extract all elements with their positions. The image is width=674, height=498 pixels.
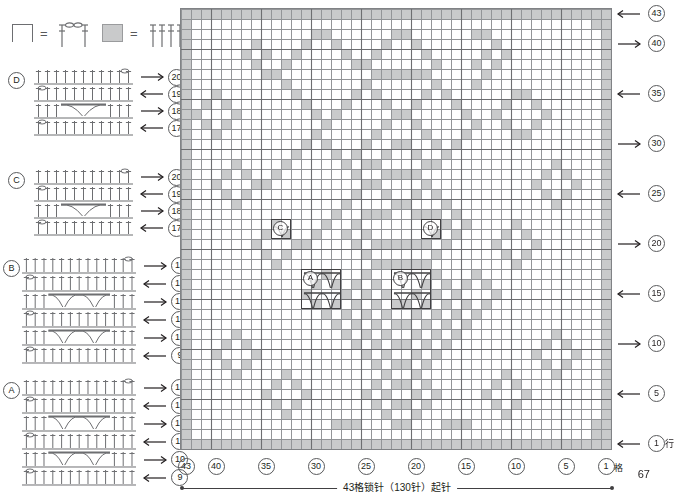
- chain-and-double-crochet-group-icon: [58, 21, 92, 53]
- page-number: 67: [638, 468, 650, 480]
- equals-sign: =: [40, 29, 48, 39]
- grid-row-number: 5: [648, 385, 665, 402]
- row-direction-arrow-left: [139, 222, 165, 234]
- row-direction-arrow-left: [142, 400, 168, 412]
- diagram-row-marker: 18: [139, 203, 185, 220]
- row-direction-arrow-left: [142, 350, 168, 362]
- row-direction-arrow-left: [616, 88, 642, 100]
- grid-column-number: 35: [258, 458, 275, 475]
- row-direction-arrow-right: [142, 382, 168, 394]
- diagram-label-c: C: [8, 172, 25, 189]
- inset-box-c[interactable]: C: [271, 219, 291, 239]
- diagram-label-b: B: [3, 260, 20, 277]
- row-direction-arrow-right: [139, 105, 165, 117]
- column-unit-label: 格: [614, 461, 623, 474]
- row-direction-arrow-left: [142, 436, 168, 448]
- grid-row-marker: 1行: [616, 435, 674, 452]
- diagram-row-marker: 20: [139, 69, 185, 86]
- inset-label-c: C: [273, 221, 288, 236]
- grid-row-number: 25: [648, 185, 665, 202]
- row-direction-arrow-left: [142, 314, 168, 326]
- diagram-row-marker: 19: [139, 186, 185, 203]
- row-direction-arrow-left: [616, 388, 642, 400]
- grid-column-number: 30: [308, 458, 325, 475]
- diagram-label-a: A: [3, 382, 20, 399]
- row-direction-arrow-right: [139, 71, 165, 83]
- row-direction-arrow-right: [616, 38, 642, 50]
- inset-label-a: A: [303, 271, 318, 286]
- stitch-diagram-a: [22, 378, 136, 490]
- legend-item-filled: =: [98, 18, 188, 52]
- row-direction-arrow-left: [139, 122, 165, 134]
- stitch-diagram-c: [34, 168, 133, 240]
- inset-box-b[interactable]: B: [391, 269, 431, 309]
- grid-row-marker: 25: [616, 185, 665, 202]
- row-direction-arrow-left: [616, 438, 642, 450]
- row-direction-arrow-left: [139, 88, 165, 100]
- inset-box-a[interactable]: A: [301, 269, 341, 309]
- stitch-diagram-d: [34, 68, 133, 140]
- grid-row-marker: 35: [616, 85, 665, 102]
- stitch-diagram-b: [22, 256, 136, 368]
- grid-row-number: 15: [648, 285, 665, 302]
- grid-row-marker: 20: [616, 235, 665, 252]
- grid-row-number: 30: [648, 135, 665, 152]
- grid-column-number: 20: [408, 458, 425, 475]
- caption-dot-right: [610, 486, 614, 490]
- row-direction-arrow-right: [142, 332, 168, 344]
- filled-square-symbol-icon: [102, 24, 123, 42]
- row-direction-arrow-left: [142, 472, 168, 484]
- row-direction-arrow-right: [142, 418, 168, 430]
- grid-column-number: 15: [458, 458, 475, 475]
- grid-column-number: 25: [358, 458, 375, 475]
- grid-column-number: 10: [508, 458, 525, 475]
- row-direction-arrow-left: [616, 8, 642, 20]
- legend: = =: [8, 18, 188, 52]
- row-direction-arrow-left: [142, 278, 168, 290]
- inset-box-d[interactable]: D: [421, 219, 441, 239]
- row-direction-arrow-right: [616, 238, 642, 250]
- row-direction-arrow-right: [142, 296, 168, 308]
- row-direction-arrow-right: [142, 260, 168, 272]
- grid-row-marker: 40: [616, 35, 665, 52]
- row-direction-arrow-left: [616, 188, 642, 200]
- legend-item-open: =: [8, 18, 94, 52]
- grid-column-number: 43: [178, 458, 195, 475]
- row-direction-arrow-right: [139, 205, 165, 217]
- row-direction-arrow-right: [616, 138, 642, 150]
- grid-column-number: 1: [598, 458, 615, 475]
- grid-row-number: 43: [648, 5, 665, 22]
- grid-row-marker: 43: [616, 5, 665, 22]
- row-direction-arrow-left: [139, 188, 165, 200]
- grid-row-number: 10: [648, 335, 665, 352]
- grid-row-marker: 30: [616, 135, 665, 152]
- grid-row-number: 20: [648, 235, 665, 252]
- row-direction-arrow-left: [616, 288, 642, 300]
- grid-row-marker: 5: [616, 385, 665, 402]
- chart-grid[interactable]: DCBA: [180, 8, 612, 450]
- diagram-row-marker: 17: [139, 220, 185, 237]
- diagram-label-d: D: [8, 72, 25, 89]
- grid-row-marker: 15: [616, 285, 665, 302]
- equals-sign: =: [130, 29, 138, 39]
- open-square-symbol-icon: [12, 24, 33, 42]
- grid-row-marker: 10: [616, 335, 665, 352]
- diagram-row-marker: 17: [139, 120, 185, 137]
- diagram-row-marker: 19: [139, 86, 185, 103]
- foundation-chain-caption: 43格锁针（130针）起针: [180, 481, 614, 497]
- grid-row-number: 1: [648, 435, 665, 452]
- inset-label-d: D: [423, 221, 438, 236]
- diagram-row-marker: 20: [139, 169, 185, 186]
- row-direction-arrow-right: [616, 338, 642, 350]
- row-direction-arrow-right: [139, 171, 165, 183]
- diagram-row-marker: 18: [139, 103, 185, 120]
- grid-column-number: 40: [208, 458, 225, 475]
- grid-row-number: 40: [648, 35, 665, 52]
- row-direction-arrow-right: [142, 454, 168, 466]
- inset-label-b: B: [393, 271, 408, 286]
- chart-grid-wrapper: DCBA: [180, 8, 612, 450]
- row-unit-label: 行: [665, 437, 674, 450]
- grid-row-number: 35: [648, 85, 665, 102]
- caption-text: 43格锁针（130针）起针: [337, 481, 457, 495]
- grid-column-number: 5: [558, 458, 575, 475]
